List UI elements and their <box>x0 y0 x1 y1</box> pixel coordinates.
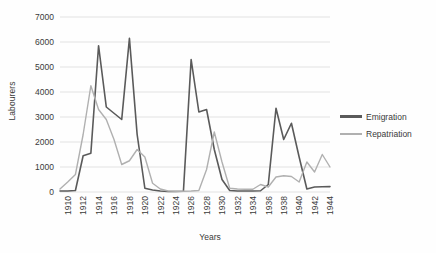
x-tick-label: 1916 <box>110 196 119 215</box>
legend-item-emigration[interactable]: Emigration <box>340 108 434 125</box>
legend-swatch-icon <box>340 133 362 135</box>
x-tick-label: 1914 <box>95 196 104 215</box>
x-tick-label: 1920 <box>141 196 150 215</box>
x-tick-label: 1938 <box>280 196 289 215</box>
legend-label: Repatriation <box>366 129 412 139</box>
x-tick-label: 1926 <box>187 196 196 215</box>
x-tick-label: 1942 <box>311 196 320 215</box>
x-tick-label: 1932 <box>234 196 243 215</box>
legend-item-repatriation[interactable]: Repatriation <box>340 125 434 142</box>
x-tick-label: 1910 <box>64 196 73 215</box>
x-tick-label: 1944 <box>326 196 335 215</box>
x-axis-title: Years <box>160 232 260 242</box>
x-tick-label: 1936 <box>265 196 274 215</box>
x-tick-label: 1924 <box>172 196 181 215</box>
x-tick-label: 1934 <box>249 196 258 215</box>
legend-label: Emigration <box>366 112 407 122</box>
x-tick-label: 1930 <box>218 196 227 215</box>
x-tick-label: 1940 <box>295 196 304 215</box>
legend-swatch-icon <box>340 115 362 118</box>
x-tick-label: 1918 <box>126 196 135 215</box>
x-tick-label: 1912 <box>79 196 88 215</box>
chart-container: Labourers 01000200030004000500060007000 … <box>0 0 436 253</box>
x-tick-label: 1928 <box>203 196 212 215</box>
x-tick-label: 1922 <box>157 196 166 215</box>
chart-legend: EmigrationRepatriation <box>340 108 434 142</box>
